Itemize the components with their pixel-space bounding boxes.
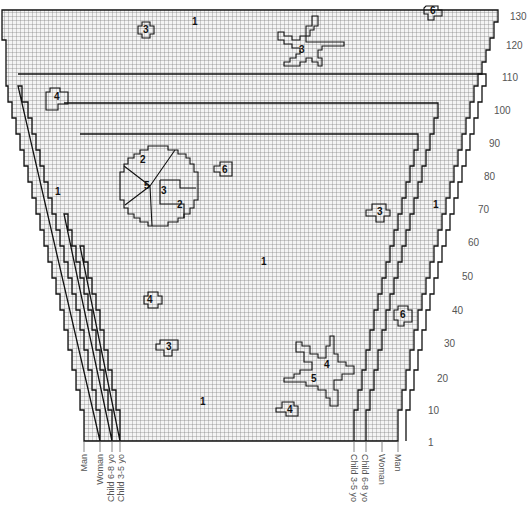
motif-label: 1: [433, 199, 439, 210]
row-label-90: 90: [489, 138, 500, 149]
row-label-130: 130: [510, 11, 527, 22]
size-label-man-right: Man: [393, 454, 403, 472]
motif-label: 3: [161, 185, 167, 196]
size-label-child-3-5-left: Child 3-5 yo: [116, 454, 126, 502]
row-label-60: 60: [468, 237, 479, 248]
size-label-woman-right: Woman: [377, 454, 387, 485]
row-label-1: 1: [428, 437, 434, 448]
motif-label: 4: [324, 359, 330, 370]
motif-label: 1: [200, 396, 206, 407]
size-label-child-3-5-right: Child 3-5 yo: [349, 454, 359, 502]
motif-label: 3: [299, 44, 305, 55]
size-label-child-6-8-left: Child 6-8 yo: [106, 454, 116, 502]
motif-label: 6: [400, 309, 406, 320]
size-label-man-left: Man: [79, 454, 89, 472]
motif-label: 4: [287, 404, 293, 415]
motif-label: 1: [55, 186, 61, 197]
motif-label: 1: [192, 16, 198, 27]
motif-label: 3: [143, 24, 149, 35]
row-label-120: 120: [506, 40, 523, 51]
motif-label: 6: [430, 5, 436, 16]
motif-label: 2: [140, 154, 146, 165]
motif-label: 2: [177, 199, 183, 210]
motif-label: 5: [144, 180, 150, 191]
row-label-50: 50: [462, 271, 473, 282]
motif-label: 3: [166, 341, 172, 352]
row-label-30: 30: [444, 338, 455, 349]
row-label-80: 80: [484, 171, 495, 182]
row-label-70: 70: [478, 204, 489, 215]
size-label-child-6-8-right: Child 6-8 yo: [360, 454, 370, 502]
motif-label: 6: [222, 164, 228, 175]
row-label-20: 20: [437, 373, 448, 384]
motif-label: 4: [54, 91, 60, 102]
row-label-110: 110: [502, 72, 518, 83]
motif-label: 1: [261, 256, 267, 267]
size-label-woman-left: Woman: [95, 454, 105, 485]
row-label-10: 10: [428, 405, 439, 416]
motif-label: 5: [311, 373, 317, 384]
row-label-100: 100: [494, 105, 511, 116]
row-label-40: 40: [452, 305, 463, 316]
motif-label: 4: [147, 294, 153, 305]
motif-label: 3: [377, 206, 383, 217]
size-ticks: [84, 441, 398, 452]
